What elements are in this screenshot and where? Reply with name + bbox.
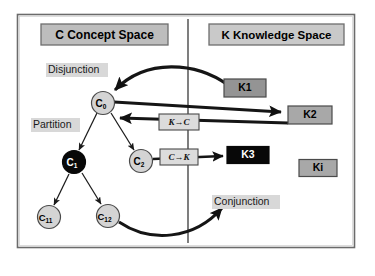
label-disjunction-text: Disjunction	[48, 63, 100, 75]
concept-node-c0[interactable]: C0	[92, 92, 115, 115]
arrow-label-k-to-c: K→C	[159, 114, 199, 130]
concept-node-c1-base: C	[67, 156, 74, 167]
concept-node-c2-base: C	[134, 155, 141, 166]
header-c-concept-space-label: C Concept Space	[55, 28, 154, 42]
concept-node-c12-subscript: 12	[104, 215, 112, 222]
knowledge-node-k2-label: K2	[303, 108, 317, 120]
concept-node-c11[interactable]: C11	[38, 206, 61, 229]
knowledge-node-k1[interactable]: K1	[224, 79, 266, 97]
header-k-knowledge-space-label: K Knowledge Space	[222, 29, 332, 41]
header-c-concept-space: C Concept Space	[41, 24, 168, 45]
concept-node-c1-subscript: 1	[74, 161, 78, 168]
concept-node-c11-subscript: 11	[46, 216, 53, 223]
header-k-knowledge-space: K Knowledge Space	[209, 24, 344, 45]
diagram-canvas: C Concept Space K Knowledge Space K1	[0, 0, 375, 276]
concept-node-c0-subscript: 0	[103, 102, 107, 109]
knowledge-node-k3[interactable]: K3	[227, 147, 269, 164]
arrow-label-c-to-k-text: C→K	[168, 152, 190, 162]
label-conjunction: Conjunction	[212, 195, 280, 209]
knowledge-node-ki-label: Ki	[313, 161, 324, 173]
knowledge-node-ki[interactable]: Ki	[299, 160, 337, 177]
concept-node-c2[interactable]: C2	[130, 150, 153, 173]
concept-node-c2-subscript: 2	[141, 160, 145, 167]
label-partition: Partition	[31, 118, 80, 132]
arrow-label-c-to-k: C→K	[160, 149, 198, 165]
concept-node-c1[interactable]: C1	[63, 151, 86, 174]
arrow-label-k-to-c-text: K→C	[167, 117, 190, 127]
concept-node-c12[interactable]: C12	[97, 205, 120, 228]
label-partition-text: Partition	[33, 118, 72, 130]
concept-node-c0-base: C	[96, 97, 103, 108]
knowledge-node-k1-label: K1	[238, 81, 252, 93]
knowledge-node-k2[interactable]: K2	[288, 106, 332, 124]
ck-theory-diagram: C Concept Space K Knowledge Space K1	[0, 0, 375, 276]
label-disjunction: Disjunction	[46, 63, 108, 77]
knowledge-node-k3-label: K3	[241, 148, 255, 160]
label-conjunction-text: Conjunction	[214, 195, 270, 207]
